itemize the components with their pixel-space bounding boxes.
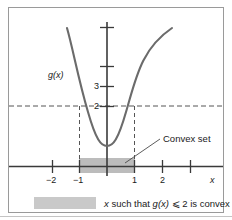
convex-set-figure: 3 2 −2 −1 1 2 x g(x) Convex set x such t… [0,0,232,220]
legend-caption-fn: g(x) [153,198,169,209]
x-tick-label-neg2: −2 [46,176,56,185]
bottom-divider [0,216,232,217]
y-tick-label-3: 3 [94,82,99,91]
x-tick-label-neg1: −1 [73,176,83,185]
annotation-leader-line [125,139,160,163]
curve-gx [67,28,172,146]
x-tick-label-pos1: 1 [132,176,137,185]
y-tick-label-2: 2 [94,102,99,111]
plot-area [0,0,232,220]
plot-svg [0,0,232,220]
x-axis-label: x [210,176,215,185]
curve-label-gx: g(x) [48,71,64,80]
x-tick-label-pos2: 2 [160,176,165,185]
legend-caption-tail: ⩽ 2 is convex [169,198,230,209]
legend-caption: x such that g(x) ⩽ 2 is convex [104,198,230,209]
legend-swatch [34,197,96,209]
legend-caption-mid: such that [109,198,153,209]
convex-set-annotation: Convex set [163,134,211,144]
